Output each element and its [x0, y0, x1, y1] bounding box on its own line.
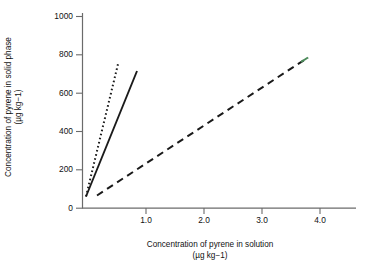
y-axis-title-line1: Concentration of pyrene in solid phase	[4, 37, 15, 177]
x-axis-title-line1: Concentration of pyrene in solution	[60, 239, 360, 250]
series-dashed-line-tip	[301, 58, 308, 63]
chart-figure: 1000 800 600 400 200 0 1.0 2.0 3.0 4.0 C…	[0, 0, 368, 278]
y-axis-title-line2: (µg kg−1)	[14, 90, 25, 125]
series-dashed-line	[97, 58, 308, 196]
y-axis-ticks	[76, 17, 82, 209]
x-axis-title: Concentration of pyrene in solution (µg …	[60, 239, 360, 261]
x-axis-ticks	[146, 208, 320, 214]
y-axis-title: Concentration of pyrene in solid phase (…	[2, 7, 26, 207]
chart-plot-area	[0, 0, 368, 278]
x-axis-title-line2: (µg kg−1)	[60, 250, 360, 261]
